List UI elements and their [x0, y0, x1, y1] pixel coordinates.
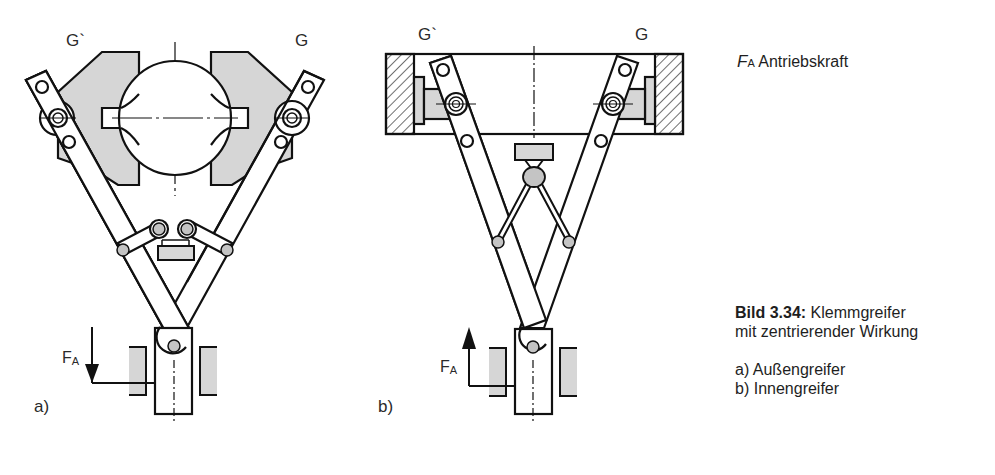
- figure-number: Bild 3.34:: [735, 304, 806, 321]
- caption-item-b: b) Innengreifer: [735, 379, 918, 398]
- stop-block: [158, 246, 194, 260]
- label-jaw-right-a: G: [295, 31, 308, 50]
- diagram-b-label: b): [378, 397, 393, 416]
- force-arrow-down: [85, 364, 99, 383]
- figure-caption: Bild 3.34: Klemmgreifer mit zentrierende…: [735, 303, 918, 398]
- right-wall: [655, 54, 683, 134]
- left-wall: [386, 54, 414, 134]
- label-jaw-left-b: G`: [418, 25, 437, 44]
- caption-item-a: a) Außengreifer: [735, 360, 918, 379]
- legend: FA Antriebskraft: [737, 52, 848, 73]
- diagram-a-label: a): [34, 397, 49, 416]
- label-jaw-left-a: G`: [66, 31, 85, 50]
- label-jaw-right-b: G: [635, 25, 648, 44]
- diagram-b-internal-gripper: [386, 46, 683, 422]
- figure-title: Klemmgreifer: [811, 304, 906, 321]
- force-label-b: FA: [440, 358, 458, 376]
- figure-subtitle: mit zentrierender Wirkung: [735, 322, 918, 341]
- legend-text: Antriebskraft: [758, 53, 848, 70]
- force-arrow-up: [462, 327, 476, 349]
- force-label-a: FA: [62, 349, 80, 367]
- legend-symbol: FA: [737, 52, 755, 71]
